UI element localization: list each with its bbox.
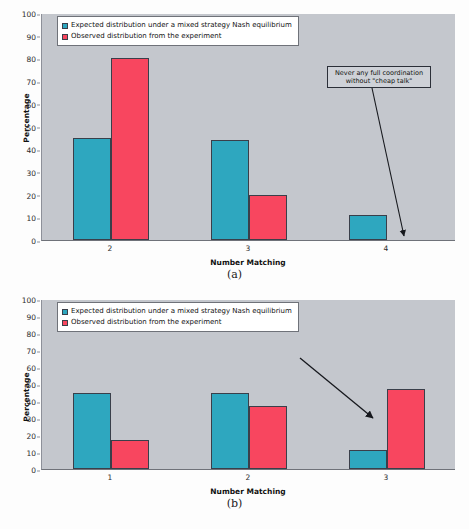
x-tick-label: 2 (246, 473, 251, 482)
bars-container-a (42, 14, 455, 240)
x-tick-label: 3 (246, 244, 251, 253)
y-tick-label: 80 (26, 55, 36, 64)
figure-caption-a: (a) (0, 268, 469, 281)
y-tick-label: 60 (26, 100, 36, 109)
bar-group (73, 14, 149, 240)
figure-b: Percentage 0102030405060708090100 123 Nu… (0, 285, 469, 529)
y-tick-label: 60 (26, 364, 36, 373)
y-tick-label: 0 (31, 466, 36, 475)
legend-item-observed-a: Observed distribution from the experimen… (62, 31, 292, 42)
legend-swatch-expected-icon (62, 309, 68, 315)
bar-expected (211, 140, 249, 240)
plot-area-a (41, 14, 455, 241)
y-tick-label: 50 (26, 381, 36, 390)
x-tick-label: 1 (108, 473, 113, 482)
bar-group (211, 14, 287, 240)
x-axis-label-b: Number Matching (41, 487, 455, 496)
bar-group (349, 14, 425, 240)
bar-expected (211, 393, 249, 470)
bar-observed (111, 440, 149, 469)
bar-observed (111, 58, 149, 240)
y-tick-label: 100 (22, 10, 36, 19)
y-tick-label: 50 (26, 123, 36, 132)
y-tick-label: 90 (26, 32, 36, 41)
annotation-callout-a: Never any full coordination without "che… (327, 66, 431, 88)
bar-expected (349, 450, 387, 469)
bar-observed (387, 389, 425, 469)
legend-label-expected: Expected distribution under a mixed stra… (71, 21, 292, 30)
legend-swatch-expected-icon (62, 23, 68, 29)
figure-a: Percentage 0102030405060708090100 234 Nu… (0, 0, 469, 285)
y-tick-label: 100 (22, 296, 36, 305)
legend-b: Expected distribution under a mixed stra… (57, 302, 299, 332)
legend-item-expected-b: Expected distribution under a mixed stra… (62, 306, 292, 317)
bar-expected (349, 215, 387, 240)
x-tick-label: 3 (384, 473, 389, 482)
legend-item-observed-b: Observed distribution from the experimen… (62, 317, 292, 328)
bar-group (349, 300, 425, 469)
y-tick-label: 90 (26, 313, 36, 322)
y-tick-label: 70 (26, 78, 36, 87)
legend-item-expected-a: Expected distribution under a mixed stra… (62, 20, 292, 31)
y-tick-label: 40 (26, 146, 36, 155)
x-tick-label: 4 (384, 244, 389, 253)
legend-swatch-observed-icon (62, 34, 68, 40)
figure-caption-b: (b) (0, 497, 469, 510)
y-tick-label: 10 (26, 449, 36, 458)
bar-expected (73, 138, 111, 240)
legend-label-expected: Expected distribution under a mixed stra… (71, 307, 292, 316)
y-tick-label: 80 (26, 330, 36, 339)
bar-expected (73, 393, 111, 470)
legend-a: Expected distribution under a mixed stra… (57, 16, 299, 46)
y-tick-label: 30 (26, 415, 36, 424)
bar-observed (249, 195, 287, 240)
y-tick-label: 10 (26, 214, 36, 223)
y-tick-label: 20 (26, 191, 36, 200)
y-tick-label: 70 (26, 347, 36, 356)
y-tick-label: 30 (26, 168, 36, 177)
legend-swatch-observed-icon (62, 320, 68, 326)
legend-label-observed: Observed distribution from the experimen… (71, 318, 221, 327)
legend-label-observed: Observed distribution from the experimen… (71, 32, 221, 41)
x-axis-label-a: Number Matching (41, 258, 455, 267)
y-tick-label: 20 (26, 432, 36, 441)
y-tick-label: 40 (26, 398, 36, 407)
x-tick-label: 2 (108, 244, 113, 253)
bar-observed (249, 406, 287, 469)
figure-page: Percentage 0102030405060708090100 234 Nu… (0, 0, 469, 529)
y-tick-label: 0 (31, 237, 36, 246)
